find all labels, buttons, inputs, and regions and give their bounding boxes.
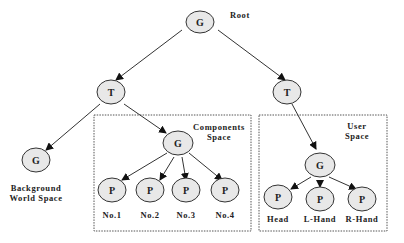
node-t-right: T xyxy=(273,80,301,104)
node-component-4-glyph: P xyxy=(222,185,228,196)
node-t-left-glyph: T xyxy=(108,87,115,98)
node-components-group-glyph: G xyxy=(174,138,182,149)
node-t-left: T xyxy=(97,80,125,104)
node-component-1-glyph: P xyxy=(109,185,115,196)
node-user-group: G xyxy=(305,153,335,177)
component-1-label: No.1 xyxy=(102,210,121,220)
user-lhand-label: L-Hand xyxy=(304,214,336,224)
edge-root-tright xyxy=(218,30,285,80)
scene-graph-diagram: G Root T T G Background World Space Comp… xyxy=(0,0,404,243)
background-label-line2: World Space xyxy=(9,193,62,203)
node-root-glyph: G xyxy=(196,17,204,28)
component-4-label: No.4 xyxy=(215,210,234,220)
node-user-rhand: P xyxy=(348,187,376,211)
background-label-line1: Background xyxy=(11,183,62,193)
root-label: Root xyxy=(230,10,250,20)
node-user-lhand: P xyxy=(306,187,334,211)
user-region-label-line2: Space xyxy=(345,131,369,141)
user-head-label: Head xyxy=(267,214,289,224)
edge-tright-usergroup xyxy=(292,104,316,149)
node-background: G xyxy=(22,148,50,172)
edge-compgroup-p1 xyxy=(122,153,167,180)
node-component-2: P xyxy=(136,178,164,202)
node-components-group: G xyxy=(163,131,193,155)
node-component-2-glyph: P xyxy=(147,185,153,196)
edge-usergroup-rhand xyxy=(329,177,356,189)
edge-tleft-compgroup xyxy=(124,104,166,133)
node-user-lhand-glyph: P xyxy=(317,194,323,205)
edge-compgroup-p2 xyxy=(160,157,174,180)
node-component-1: P xyxy=(98,178,126,202)
node-user-group-glyph: G xyxy=(316,160,324,171)
node-background-glyph: G xyxy=(32,155,40,166)
components-region-label-line1: Components xyxy=(193,122,245,132)
user-rhand-label: R-Hand xyxy=(346,214,379,224)
node-t-right-glyph: T xyxy=(284,87,291,98)
edge-compgroup-p3 xyxy=(182,157,186,180)
node-user-rhand-glyph: P xyxy=(359,194,365,205)
edge-tleft-background xyxy=(46,104,100,150)
components-region-label-line2: Space xyxy=(207,132,231,142)
node-user-head-glyph: P xyxy=(275,192,281,203)
edge-compgroup-p4 xyxy=(189,153,222,180)
node-component-4: P xyxy=(211,178,239,202)
node-component-3: P xyxy=(172,178,200,202)
node-component-3-glyph: P xyxy=(183,185,189,196)
node-root: G xyxy=(186,11,214,33)
user-region-label-line1: User xyxy=(347,121,366,131)
node-user-head: P xyxy=(264,185,292,209)
component-2-label: No.2 xyxy=(140,210,159,220)
edge-usergroup-head xyxy=(291,177,311,189)
edge-root-tleft xyxy=(116,30,182,80)
component-3-label: No.3 xyxy=(176,210,195,220)
